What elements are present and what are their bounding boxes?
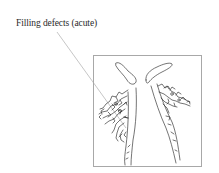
figure-frame [94,56,202,167]
left-collecting-system [99,63,136,165]
illustration [0,0,219,173]
right-collecting-system [146,63,190,163]
leader-line [57,32,126,128]
